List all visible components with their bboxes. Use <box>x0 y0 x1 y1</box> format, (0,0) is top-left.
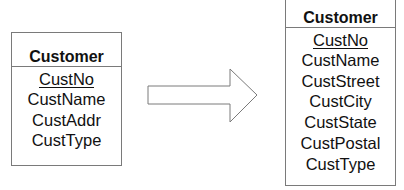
header-divider <box>286 27 395 28</box>
entity-customer-after: Customer CustNo CustName CustStreet Cust… <box>285 0 396 186</box>
attribute: CustType <box>286 154 395 174</box>
attribute-primary-key: CustNo <box>286 30 395 50</box>
attribute: CustStreet <box>286 71 395 91</box>
attribute: CustState <box>286 112 395 132</box>
attribute: CustCity <box>286 91 395 111</box>
attribute: CustName <box>286 50 395 70</box>
entity-title: Customer <box>286 9 395 27</box>
attribute: CustPostal <box>286 133 395 153</box>
